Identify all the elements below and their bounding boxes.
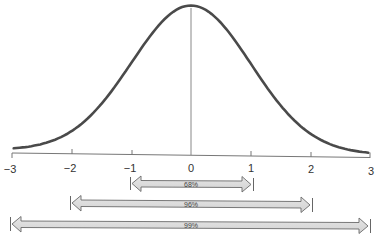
- tick-label: −3: [4, 163, 17, 175]
- tick-label: −2: [64, 162, 77, 174]
- normal-distribution-diagram: −3 −2 −1 0 1 2 3 68% 96% 99%: [0, 0, 377, 243]
- tick-label: 0: [188, 162, 194, 174]
- range-arrow-68: 68%: [131, 176, 254, 192]
- range-arrow-96: 96%: [71, 196, 313, 213]
- range-label-99: 99%: [184, 222, 198, 229]
- tick-label: −1: [124, 162, 137, 174]
- tick-label: 1: [248, 162, 254, 174]
- range-label-68: 68%: [184, 181, 198, 188]
- range-label-96: 96%: [184, 201, 198, 208]
- x-axis-tick-labels: −3 −2 −1 0 1 2 3: [4, 162, 374, 177]
- tick-label: 2: [308, 163, 314, 175]
- range-arrow-99: 99%: [11, 217, 371, 234]
- tick-label: 3: [368, 165, 374, 177]
